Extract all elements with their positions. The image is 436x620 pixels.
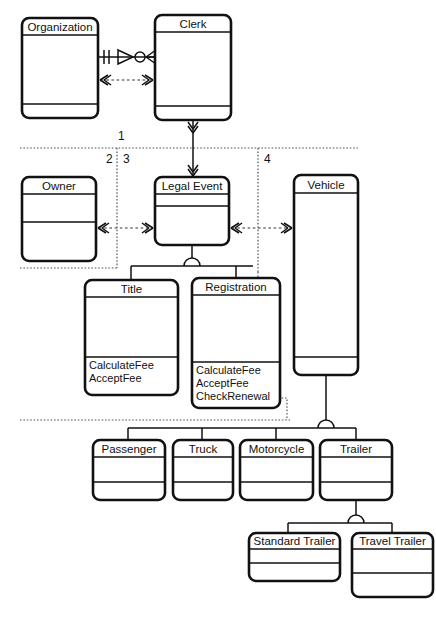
class-legal-event[interactable]: Legal Event bbox=[155, 177, 229, 245]
gen-vehicle-arc bbox=[318, 420, 334, 428]
class-title[interactable]: TitleCalculateFeeAcceptFee bbox=[85, 280, 178, 395]
class-name-vehicle: Vehicle bbox=[307, 179, 344, 191]
class-name-organization: Organization bbox=[27, 21, 92, 33]
class-standard-trailer[interactable]: Standard Trailer bbox=[249, 533, 340, 581]
partition-2-label: 2 bbox=[106, 152, 113, 166]
class-owner[interactable]: Owner bbox=[22, 177, 96, 261]
class-name-motorcycle: Motorcycle bbox=[249, 443, 305, 455]
class-name-passenger: Passenger bbox=[102, 443, 157, 455]
class-name-trailer: Trailer bbox=[340, 443, 372, 455]
class-box-organization[interactable] bbox=[22, 18, 98, 118]
class-passenger[interactable]: Passenger bbox=[93, 440, 165, 500]
class-trailer[interactable]: Trailer bbox=[320, 440, 392, 500]
class-name-legal-event: Legal Event bbox=[162, 180, 224, 192]
class-name-owner: Owner bbox=[42, 180, 76, 192]
class-operation-registration-2: CheckRenewal bbox=[196, 390, 270, 402]
class-name-registration: Registration bbox=[205, 281, 266, 293]
class-box-vehicle[interactable] bbox=[294, 175, 358, 375]
class-travel-trailer[interactable]: Travel Trailer bbox=[352, 533, 433, 597]
class-name-clerk: Clerk bbox=[180, 18, 207, 30]
class-operation-registration-0: CalculateFee bbox=[196, 364, 261, 376]
class-operation-registration-1: AcceptFee bbox=[196, 377, 249, 389]
partition-1-label: 1 bbox=[118, 129, 125, 143]
class-name-title: Title bbox=[121, 283, 142, 295]
class-name-standard-trailer: Standard Trailer bbox=[254, 535, 336, 547]
gen-trailer-arc bbox=[348, 515, 364, 523]
class-clerk[interactable]: Clerk bbox=[155, 15, 231, 120]
partition-4-label: 4 bbox=[264, 152, 271, 166]
class-name-truck: Truck bbox=[189, 443, 218, 455]
partition-3-label: 3 bbox=[123, 152, 130, 166]
uml-class-diagram: .box{fill:#ffffff;stroke:#111;stroke-wid… bbox=[0, 0, 436, 620]
class-motorcycle[interactable]: Motorcycle bbox=[240, 440, 313, 500]
class-name-travel-trailer: Travel Trailer bbox=[359, 535, 426, 547]
class-organization[interactable]: Organization bbox=[22, 18, 98, 118]
class-vehicle[interactable]: Vehicle bbox=[294, 175, 358, 375]
class-truck[interactable]: Truck bbox=[173, 440, 233, 500]
gen-legalevent-arc bbox=[184, 258, 200, 266]
class-box-clerk[interactable] bbox=[155, 15, 231, 120]
class-operation-title-0: CalculateFee bbox=[89, 359, 154, 371]
class-registration[interactable]: RegistrationCalculateFeeAcceptFeeCheckRe… bbox=[192, 278, 280, 408]
class-operation-title-1: AcceptFee bbox=[89, 372, 142, 384]
partition-labels-layer: 1234 bbox=[106, 129, 271, 166]
class-boxes-layer: OrganizationClerkOwnerLegal EventVehicle… bbox=[22, 15, 433, 597]
